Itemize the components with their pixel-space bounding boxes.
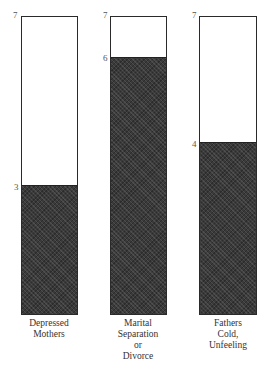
bar-fill-fathers-cold bbox=[200, 142, 256, 314]
bar-depressed-mothers bbox=[21, 16, 78, 315]
value-label-2: 6 bbox=[103, 54, 108, 63]
total-label-2: 7 bbox=[103, 11, 108, 20]
bar-fill-depressed-mothers bbox=[22, 185, 77, 314]
category-label-depressed-mothers: Depressed Mothers bbox=[4, 318, 94, 340]
bar-fill-marital-separation bbox=[111, 57, 166, 314]
total-label-1: 7 bbox=[13, 11, 18, 20]
bar-fathers-cold bbox=[199, 16, 257, 315]
value-label-3: 4 bbox=[192, 140, 197, 149]
category-label-fathers-cold: Fathers Cold, Unfeeling bbox=[183, 318, 271, 351]
bar-marital-separation bbox=[110, 16, 167, 315]
total-label-3: 7 bbox=[192, 11, 197, 20]
category-label-marital-separation: Marital Separation or Divorce bbox=[93, 318, 183, 362]
value-label-1: 3 bbox=[14, 183, 19, 192]
